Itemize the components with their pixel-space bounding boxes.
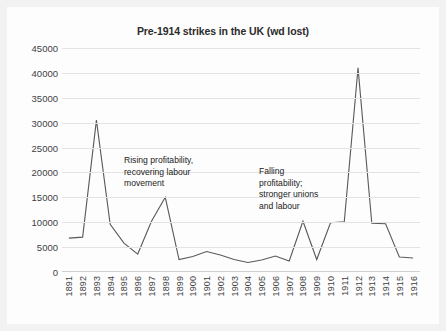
x-axis-tick-label: 1895 xyxy=(119,276,129,296)
gridline xyxy=(62,222,420,223)
y-axis-tick-label: 0 xyxy=(53,267,58,278)
gridline xyxy=(62,148,420,149)
x-axis-tick-label: 1915 xyxy=(395,276,405,296)
x-axis-tick-label: 1910 xyxy=(326,276,336,296)
x-axis-tick-label: 1893 xyxy=(92,276,102,296)
x-axis-tick-label: 1912 xyxy=(354,276,364,296)
x-axis: 1891189218931894189518961897189818991900… xyxy=(62,276,420,326)
x-axis-tick-label: 1907 xyxy=(285,276,295,296)
x-axis-tick-label: 1913 xyxy=(367,276,377,296)
x-axis-tick-label: 1891 xyxy=(64,276,74,296)
chart-container: Pre-1914 strikes in the UK (wd lost) 050… xyxy=(0,0,446,331)
x-axis-line xyxy=(62,271,420,272)
gridline xyxy=(62,73,420,74)
gridline xyxy=(62,172,420,173)
y-axis: 0500010000150002000025000300003500040000… xyxy=(0,48,58,272)
gridline xyxy=(62,48,420,49)
y-axis-tick-label: 45000 xyxy=(32,43,58,54)
x-axis-tick-label: 1906 xyxy=(271,276,281,296)
x-axis-tick-label: 1909 xyxy=(312,276,322,296)
y-axis-tick-label: 30000 xyxy=(32,117,58,128)
plot-area xyxy=(62,48,420,272)
gridline xyxy=(62,247,420,248)
x-axis-tick-label: 1908 xyxy=(298,276,308,296)
x-axis-tick-label: 1897 xyxy=(147,276,157,296)
gridline xyxy=(62,98,420,99)
y-axis-tick-label: 35000 xyxy=(32,92,58,103)
y-axis-tick-label: 25000 xyxy=(32,142,58,153)
x-axis-tick-label: 1914 xyxy=(381,276,391,296)
annotation-rising-profitability: Rising profitability, recovering labour … xyxy=(124,155,214,190)
x-axis-tick-label: 1911 xyxy=(340,276,350,296)
y-axis-tick-label: 5000 xyxy=(37,242,58,253)
x-axis-tick-label: 1899 xyxy=(175,276,185,296)
x-axis-tick-label: 1903 xyxy=(230,276,240,296)
x-axis-tick-label: 1902 xyxy=(216,276,226,296)
annotation-falling-profitability: Falling profitability; stronger unions a… xyxy=(259,166,341,212)
chart-title: Pre-1914 strikes in the UK (wd lost) xyxy=(0,25,446,37)
y-axis-tick-label: 40000 xyxy=(32,67,58,78)
y-axis-tick-label: 15000 xyxy=(32,192,58,203)
x-axis-tick-label: 1900 xyxy=(188,276,198,296)
x-axis-tick-label: 1901 xyxy=(202,276,212,296)
series-line-strikes xyxy=(62,48,420,272)
y-axis-tick-label: 10000 xyxy=(32,217,58,228)
x-axis-tick-label: 1916 xyxy=(409,276,419,296)
gridline xyxy=(62,197,420,198)
y-axis-tick-label: 20000 xyxy=(32,167,58,178)
x-axis-tick-label: 1894 xyxy=(106,276,116,296)
x-axis-tick-label: 1905 xyxy=(257,276,267,296)
x-axis-tick-label: 1896 xyxy=(133,276,143,296)
gridline xyxy=(62,123,420,124)
x-axis-tick-label: 1892 xyxy=(78,276,88,296)
x-axis-tick-label: 1898 xyxy=(161,276,171,296)
x-axis-tick-label: 1904 xyxy=(243,276,253,296)
